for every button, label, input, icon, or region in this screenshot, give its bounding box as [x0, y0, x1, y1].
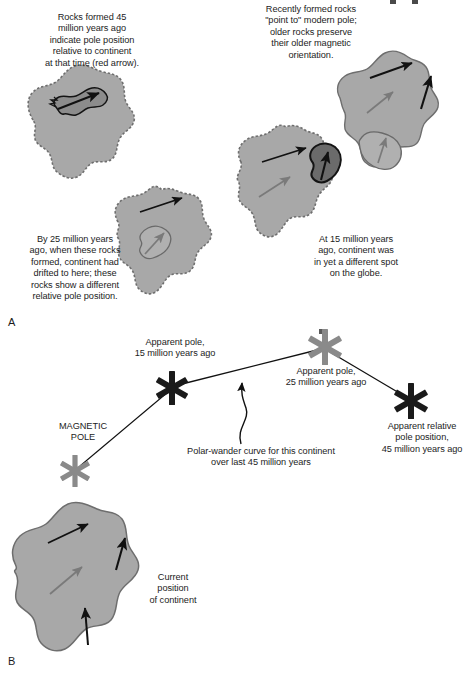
label-apparent-pole-45ma: Apparent relative pole position, 45 mill… — [372, 421, 472, 455]
panel-letter-a: A — [8, 316, 15, 328]
continent-present — [338, 51, 439, 169]
caption-25ma: By 25 million years ago, when these rock… — [8, 234, 142, 302]
label-apparent-pole-15ma: Apparent pole, 15 million years ago — [110, 337, 240, 360]
label-magnetic-pole: MAGNETIC POLE — [40, 421, 126, 444]
star-pole-45ma — [394, 383, 428, 419]
continent-current — [13, 503, 139, 651]
caption-45ma: Rocks formed 45 million years ago indica… — [12, 12, 172, 69]
caption-15ma: At 15 million years ago, continent was i… — [296, 234, 416, 280]
continent-45ma — [28, 65, 134, 178]
panel-letter-b: B — [8, 655, 15, 667]
star-magnetic-pole — [60, 455, 90, 487]
caption-recent-rocks: Recently formed rocks "point to" modern … — [236, 4, 386, 61]
label-polar-wander-curve: Polar-wander curve for this continent ov… — [168, 446, 354, 469]
top-edge-marks — [390, 0, 418, 4]
star-pole-15ma — [156, 371, 188, 405]
continent-15ma — [237, 125, 340, 237]
figure-polar-wander: Rocks formed 45 million years ago indica… — [0, 0, 472, 679]
label-current-position: Current position of continent — [134, 572, 212, 606]
curve-callout-arrow — [240, 383, 247, 444]
label-apparent-pole-25ma: Apparent pole, 25 million years ago — [262, 366, 390, 389]
star-pole-25ma — [308, 329, 342, 365]
